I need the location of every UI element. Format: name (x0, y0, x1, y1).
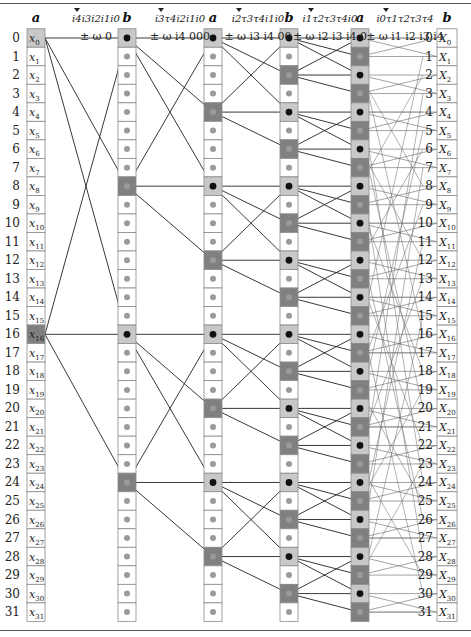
node-dot (210, 554, 216, 560)
node-dot (357, 387, 363, 393)
node-dot (286, 517, 292, 523)
butterfly-edge (213, 186, 289, 223)
node-dot-active (357, 257, 364, 264)
output-index: 4 (425, 105, 433, 119)
output-index: 20 (418, 401, 433, 415)
stage-label-1: i3τ4i2i1i0± ω i4 000 (150, 8, 210, 43)
butterfly-lines (45, 38, 437, 612)
row-index: 30 (5, 587, 20, 601)
node-dot (357, 313, 363, 319)
butterfly-edge (45, 334, 127, 482)
node-dot (124, 350, 130, 356)
node-dot (357, 239, 363, 245)
svg-text:± ω i3 i4 00: ± ω i3 i4 00 (224, 30, 291, 43)
node-dot (210, 535, 216, 541)
svg-text:i2τ3τ4i1i0: i2τ3τ4i1i0 (232, 13, 285, 24)
node-dot (286, 424, 292, 430)
output-index: 8 (425, 179, 433, 193)
column-2 (204, 29, 222, 622)
node-dot (286, 387, 292, 393)
node-dot (124, 239, 130, 245)
column-header: a (209, 10, 217, 25)
node-dot-active (124, 35, 131, 42)
node-dot-active (357, 72, 364, 79)
node-dot (210, 498, 216, 504)
node-dot (357, 609, 363, 615)
marker-triangle-icon (158, 8, 164, 12)
node-dot (286, 609, 292, 615)
butterfly-edge (213, 334, 289, 371)
output-index: 6 (425, 142, 433, 156)
node-dot (124, 572, 130, 578)
node-dot (286, 220, 292, 226)
butterfly-edge (289, 408, 360, 427)
labels: ax0x1x2x3x4x5x6x7x8x9x10x11x12x13x14x15x… (5, 8, 457, 621)
output-index: 23 (418, 457, 433, 471)
svg-text:± ω i4 000: ± ω i4 000 (150, 30, 210, 43)
butterfly-edge (289, 260, 360, 279)
node-dot (286, 591, 292, 597)
node-dot (124, 257, 130, 263)
stage-label-3: i1τ2τ3τ4i0± ω i2 i3 i4 0 (293, 8, 367, 43)
row-index: 22 (5, 438, 20, 452)
row-index: 28 (5, 550, 20, 564)
node-dot (357, 350, 363, 356)
row-index: 4 (12, 105, 20, 119)
node-dot (124, 479, 130, 485)
butterfly-edge (289, 520, 360, 539)
node-dot (210, 368, 216, 374)
node-dot (210, 128, 216, 134)
node-dot (210, 276, 216, 282)
node-dot-active (357, 109, 364, 116)
row-index: 29 (5, 568, 20, 582)
svg-text:± ω i2 i3 i4 0: ± ω i2 i3 i4 0 (293, 30, 367, 43)
butterfly-edge (289, 75, 360, 94)
node-dot (357, 572, 363, 578)
node-dot (286, 350, 292, 356)
row-index: 26 (5, 513, 20, 527)
node-dot-active (286, 183, 293, 190)
node-dot (124, 183, 130, 189)
row-index: 31 (5, 605, 20, 619)
butterfly-edge (45, 38, 127, 186)
output-index: 19 (418, 383, 433, 397)
output-index: 11 (418, 235, 433, 249)
output-index: 25 (418, 494, 433, 508)
node-dot (286, 368, 292, 374)
fft-butterfly-diagram: ax0x1x2x3x4x5x6x7x8x9x10x11x12x13x14x15x… (0, 0, 471, 637)
butterfly-edge (213, 260, 289, 297)
column-1 (118, 29, 136, 622)
output-index: 14 (418, 290, 434, 304)
column-4 (351, 29, 369, 622)
node-dot (357, 461, 363, 467)
node-dot (124, 146, 130, 152)
butterfly-edge (289, 112, 360, 131)
node-dot-active (286, 257, 293, 264)
node-dot-active (210, 183, 217, 190)
node-dot (357, 54, 363, 60)
column-header: b (122, 10, 131, 25)
output-index: 30 (418, 587, 433, 601)
node-dot-active (357, 220, 364, 227)
output-index: 15 (418, 309, 433, 323)
butterfly-edge (213, 482, 289, 519)
butterfly-edge (213, 112, 289, 149)
node-dot (357, 498, 363, 504)
svg-text:i4i3i2i1i0: i4i3i2i1i0 (72, 13, 120, 24)
output-index: 13 (418, 272, 433, 286)
output-index: 21 (418, 420, 433, 434)
marker-triangle-icon (383, 8, 389, 12)
output-index: 17 (418, 346, 433, 360)
butterfly-edge (289, 186, 360, 205)
column-header: a (32, 10, 40, 25)
node-dot (210, 72, 216, 78)
row-index: 6 (12, 142, 20, 156)
node-dot (210, 442, 216, 448)
output-index: 7 (425, 161, 433, 175)
butterfly-edge (289, 149, 360, 168)
node-dot (124, 72, 130, 78)
node-dot-active (357, 516, 364, 523)
node-dot (210, 294, 216, 300)
node-dot (124, 202, 130, 208)
node-dot (286, 313, 292, 319)
